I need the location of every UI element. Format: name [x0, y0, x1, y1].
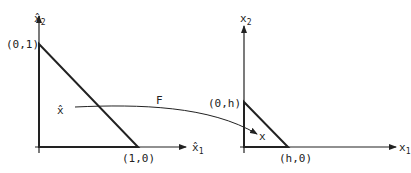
mapping-label: F: [156, 94, 163, 107]
right-physical-panel: x2 x1 (0,h) (h,0) x: [208, 12, 411, 165]
right-y-axis-label: x2: [240, 12, 252, 27]
right-x-axis-label: x1: [399, 141, 411, 156]
reference-triangle: [39, 44, 138, 147]
reference-point-label: x̂: [57, 104, 64, 117]
vertex-label-0-h: (0,h): [208, 97, 241, 110]
vertex-label-1-0: (1,0): [122, 152, 155, 165]
reference-to-physical-element-diagram: x̂2 x̂1 (0,1) (1,0) x̂ F x2 x1 (0,h) (h,…: [0, 0, 411, 173]
physical-triangle: [244, 102, 288, 147]
left-reference-panel: x̂2 x̂1 (0,1) (1,0) x̂: [6, 12, 204, 165]
left-y-axis-label: x̂2: [34, 12, 46, 27]
physical-point-label: x: [259, 130, 266, 143]
left-x-axis-label: x̂1: [192, 141, 204, 156]
vertex-label-0-1: (0,1): [6, 38, 39, 51]
vertex-label-h-0: (h,0): [279, 152, 312, 165]
